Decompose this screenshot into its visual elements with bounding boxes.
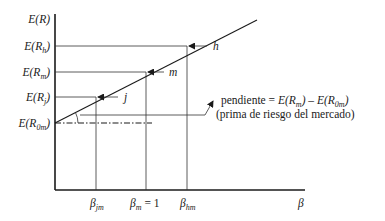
slope-leader-arrow [80,101,213,115]
slope-note-line1: pendiente = E(Rm) – E(R0m) [221,94,349,109]
y-label-Rj: E(Rj) [25,91,50,106]
slope-angle-arc [76,113,79,123]
point-label-j: j [122,91,127,104]
y-label-Rh: E(Rh) [23,40,50,55]
x-label-beta-hm: βhm [179,197,196,212]
x-label-beta-m: βm = 1 [129,197,160,212]
x-axis-title: β [297,197,304,210]
slope-note-line2: (prima de riesgo del mercado) [216,108,355,121]
sml-diagram: h m j E(R) E(Rh) E(Rm) E(Rj) E(R0m) βjm … [0,0,385,221]
y-label-Rm: E(Rm) [21,66,50,81]
point-label-m: m [169,66,177,78]
y-label-R0m: E(R0m) [17,117,50,132]
y-axis-title: E(R) [27,13,50,26]
point-label-h: h [213,40,219,52]
x-label-beta-jm: βjm [89,197,104,212]
